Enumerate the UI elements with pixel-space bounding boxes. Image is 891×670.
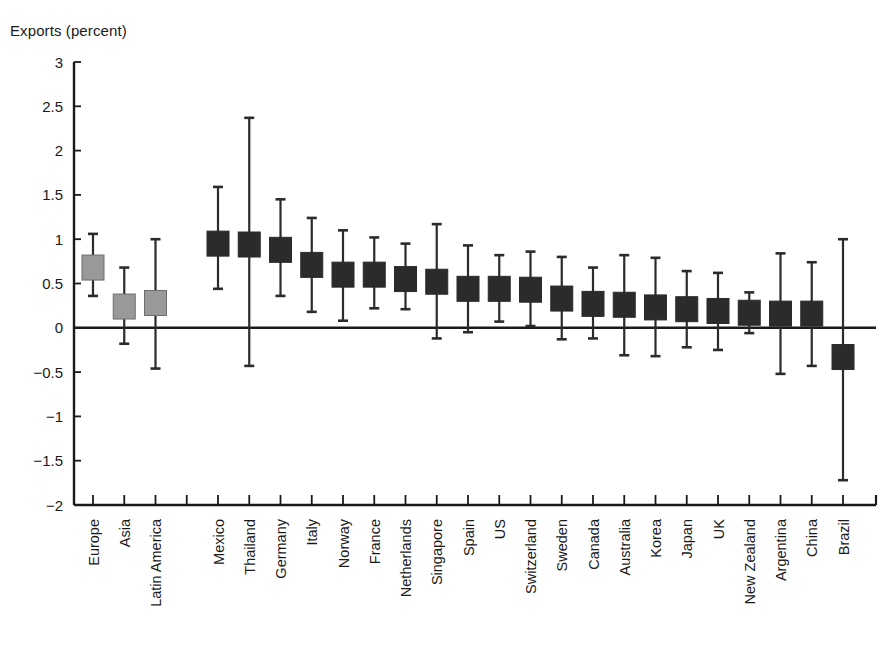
value-box	[238, 232, 260, 257]
x-axis-category-label: US	[492, 519, 508, 539]
x-axis-category-label: Brazil	[836, 519, 852, 555]
y-axis-tick-label: 0.5	[42, 275, 63, 292]
value-box	[363, 262, 385, 287]
x-axis-category-label: Switzerland	[523, 519, 539, 594]
value-box	[520, 277, 542, 302]
value-box	[113, 294, 135, 319]
x-axis-category-label: Korea	[648, 518, 664, 558]
x-axis-category-label: Mexico	[211, 519, 227, 565]
y-axis-tick-label: −0.5	[33, 364, 63, 381]
x-axis-category-label: Norway	[336, 518, 352, 568]
x-axis-category-label: Australia	[617, 518, 633, 575]
value-box	[332, 262, 354, 287]
data-marker	[613, 255, 635, 355]
x-axis-category-label: Singapore	[429, 519, 445, 585]
x-axis-category-label: Latin America	[148, 518, 164, 607]
x-axis-category-label: Europe	[86, 519, 102, 566]
data-marker	[207, 187, 229, 289]
data-marker	[520, 252, 542, 326]
x-axis-category-label: Canada	[586, 518, 602, 570]
value-box	[82, 255, 104, 280]
value-box	[488, 276, 510, 301]
value-box	[395, 267, 417, 292]
x-axis-category-label: France	[367, 519, 383, 564]
value-box	[301, 252, 323, 277]
chart-canvas: 32.521.510.50−0.5−1−1.5−2 EuropeAsiaLati…	[0, 0, 891, 670]
y-axis-tick-label: −1	[46, 408, 63, 425]
data-marker	[301, 218, 323, 312]
data-marker	[832, 239, 854, 480]
data-marker	[676, 271, 698, 347]
x-axis-category-label: China	[804, 518, 820, 557]
x-axis-label-group: EuropeAsiaLatin AmericaMexicoThailandGer…	[86, 518, 852, 607]
x-axis-tick-group	[93, 495, 843, 505]
data-marker	[770, 253, 792, 373]
value-box	[645, 295, 667, 320]
value-box	[551, 286, 573, 311]
value-box	[676, 297, 698, 322]
y-axis-tick-label: 1	[55, 231, 63, 248]
data-marker	[363, 237, 385, 308]
value-box	[457, 276, 479, 301]
x-axis-category-label: Asia	[117, 518, 133, 547]
data-marker	[270, 199, 292, 296]
data-marker	[113, 268, 135, 344]
y-axis-tick-label: 1.5	[42, 186, 63, 203]
x-axis-category-label: Sweden	[554, 519, 570, 571]
x-axis-category-label: Thailand	[242, 519, 258, 575]
value-box	[801, 301, 823, 326]
exports-percent-chart: Exports (percent) 32.521.510.50−0.5−1−1.…	[0, 0, 891, 670]
x-axis-category-label: Argentina	[773, 518, 789, 581]
x-axis-category-label: New Zealand	[742, 519, 758, 604]
x-axis-category-label: UK	[711, 519, 727, 539]
value-box	[145, 290, 167, 315]
data-marker	[488, 255, 510, 321]
value-box	[207, 231, 229, 256]
y-axis-tick-label: 2	[55, 142, 63, 159]
x-axis-category-label: Japan	[679, 519, 695, 559]
value-box	[770, 301, 792, 326]
value-box	[426, 269, 448, 294]
data-marker-group	[82, 118, 854, 480]
y-axis-tick-label: 0	[55, 319, 63, 336]
value-box	[832, 345, 854, 370]
data-marker	[145, 239, 167, 368]
y-axis-tick-label: 2.5	[42, 98, 63, 115]
y-axis-tick-label: −1.5	[33, 452, 63, 469]
y-axis-tick-label: −2	[46, 497, 63, 514]
y-axis-tick-label: 3	[55, 54, 63, 71]
data-marker	[645, 258, 667, 356]
data-marker	[332, 230, 354, 320]
x-axis-category-label: Netherlands	[398, 519, 414, 597]
value-box	[582, 291, 604, 316]
x-axis-category-label: Spain	[461, 519, 477, 556]
value-box	[613, 292, 635, 317]
x-axis-category-label: Italy	[304, 518, 320, 545]
data-marker	[801, 262, 823, 366]
value-box	[707, 298, 729, 323]
data-marker	[457, 245, 479, 332]
data-marker	[395, 244, 417, 310]
data-marker	[707, 273, 729, 350]
value-box	[738, 300, 760, 325]
data-marker	[82, 234, 104, 296]
data-marker	[426, 224, 448, 338]
x-axis-category-label: Germany	[273, 518, 289, 578]
value-box	[270, 237, 292, 262]
